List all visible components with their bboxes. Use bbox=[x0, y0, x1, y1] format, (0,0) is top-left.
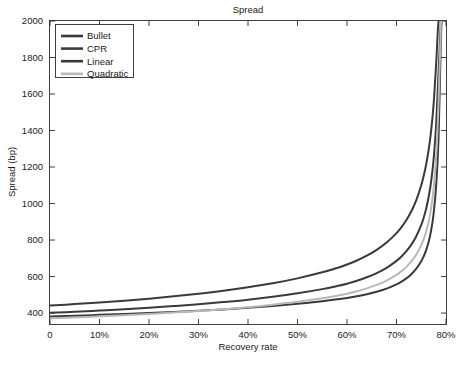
spread-line-chart: Spread 010%20%30%40%50%60%70%80% 4006008… bbox=[0, 0, 469, 365]
x-tick-label: 70% bbox=[387, 329, 407, 340]
x-tick-label: 80% bbox=[436, 329, 456, 340]
x-axis-tick-labels: 010%20%30%40%50%60%70%80% bbox=[47, 329, 456, 340]
x-tick-label: 30% bbox=[189, 329, 209, 340]
x-tick-label: 0 bbox=[47, 329, 52, 340]
x-tick-label: 40% bbox=[238, 329, 258, 340]
y-tick-label: 1800 bbox=[22, 52, 43, 63]
chart-title: Spread bbox=[233, 4, 264, 15]
legend-label-cpr: CPR bbox=[87, 43, 107, 54]
x-tick-label: 60% bbox=[337, 329, 357, 340]
legend-label-linear: Linear bbox=[87, 56, 113, 67]
y-tick-label: 400 bbox=[27, 307, 43, 318]
y-tick-label: 1600 bbox=[22, 88, 43, 99]
y-tick-label: 1000 bbox=[22, 198, 43, 209]
y-tick-label: 1200 bbox=[22, 161, 43, 172]
y-axis-title: Spread (bp) bbox=[6, 147, 17, 197]
x-tick-label: 50% bbox=[288, 329, 308, 340]
y-tick-label: 1400 bbox=[22, 125, 43, 136]
x-tick-label: 20% bbox=[139, 329, 159, 340]
y-tick-label: 800 bbox=[27, 234, 43, 245]
chart-figure: Spread 010%20%30%40%50%60%70%80% 4006008… bbox=[0, 0, 469, 365]
x-axis-title: Recovery rate bbox=[218, 341, 277, 352]
y-tick-label: 600 bbox=[27, 271, 43, 282]
x-tick-label: 10% bbox=[90, 329, 110, 340]
legend-label-bullet: Bullet bbox=[87, 30, 111, 41]
chart-legend: BulletCPRLinearQuadratic bbox=[56, 25, 134, 80]
legend-label-quadratic: Quadratic bbox=[87, 68, 128, 79]
y-tick-label: 2000 bbox=[22, 15, 43, 26]
